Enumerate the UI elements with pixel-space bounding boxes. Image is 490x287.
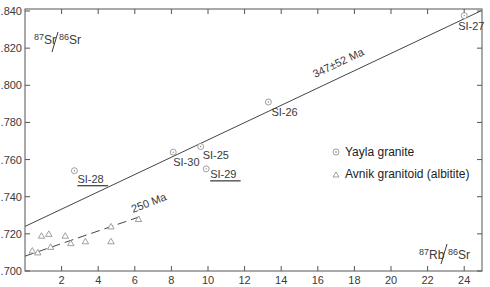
x-tick-label: 22 [421,274,433,286]
yayla-point-dot-icon [173,151,174,152]
x-tick-label: 10 [202,274,214,286]
x-tick-label: 12 [238,274,250,286]
x-tick-label: 8 [168,274,174,286]
x-tick-label: 2 [59,274,65,286]
avnik-point-triangle-icon [108,238,114,244]
legend-label-avnik: Avnik granitoid (albitite) [345,167,470,181]
x-tick-label: 20 [385,274,397,286]
avnik-point-triangle-icon [38,233,44,239]
yayla-point-dot-icon [464,15,465,16]
isochron-age-label: 347±52 Ma [311,45,367,80]
x-axis-label: 87Rb [419,247,445,262]
legend-triangle-icon [333,172,339,177]
isochron-chart: 24681012141618202224.700.720.740.760.780… [0,0,490,287]
avnik-point-triangle-icon [35,249,41,255]
legend: Yayla granite Avnik granitoid (albitite) [333,145,470,181]
plot-border [25,9,482,271]
y-axis-label-2: 86Sr [59,32,81,47]
avnik-point-triangle-icon [135,216,141,222]
avnik-point-triangle-icon [29,248,35,254]
y-axis-label: 87Sr [34,32,56,47]
isochron-line [25,11,481,226]
sample-label: SI-28 [77,173,103,185]
avnik-point-triangle-icon [46,231,52,237]
reference-age-label: 250 Ma [129,190,168,215]
x-tick-label: 16 [312,274,324,286]
plot-frame [25,9,482,271]
legend-label-yayla: Yayla granite [345,145,414,159]
y-tick-label: .740 [1,191,22,203]
y-tick-label: .800 [1,79,22,91]
avnik-point-triangle-icon [108,223,114,229]
x-tick-label: 24 [458,274,470,286]
y-tick-label: .840 [1,5,22,17]
legend-circle-dot-icon [335,151,337,153]
y-tick-label: .760 [1,154,22,166]
yayla-point-dot-icon [205,168,206,169]
x-axis-label-2: 86Sr [448,247,470,262]
sample-label: SI-29 [210,168,236,180]
sample-label: SI-27 [458,20,484,32]
y-tick-label: .720 [1,228,22,240]
regression-lines [25,11,481,256]
y-tick-label: .700 [1,265,22,277]
x-tick-label: 14 [275,274,287,286]
yayla-point-dot-icon [268,101,269,102]
sample-label: SI-30 [173,156,199,168]
avnik-point-triangle-icon [62,233,68,239]
x-tick-label: 4 [95,274,101,286]
annotations: 347±52 Ma250 MaSI-27SI-26SI-25SI-30SI-29… [77,20,484,215]
sample-label: SI-25 [203,149,229,161]
y-tick-label: .780 [1,116,22,128]
x-tick-label: 6 [132,274,138,286]
y-tick-label: .820 [1,42,22,54]
avnik-point-triangle-icon [82,238,88,244]
sample-label: SI-26 [271,106,297,118]
yayla-point-dot-icon [200,146,201,147]
yayla-point-dot-icon [74,170,75,171]
x-tick-label: 18 [348,274,360,286]
